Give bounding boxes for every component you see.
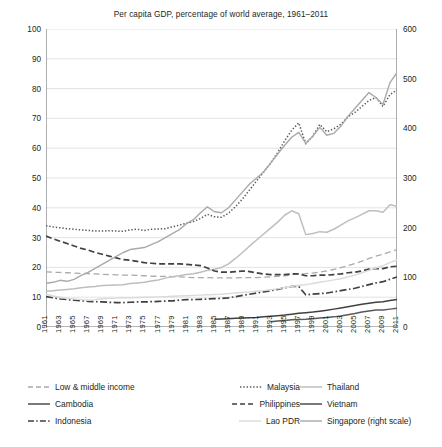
y-tick-label-left: 20 (7, 263, 41, 272)
x-tick-label: 2001 (321, 315, 330, 333)
x-tick-label: 1965 (68, 315, 77, 333)
y-tick-label-left: 30 (7, 233, 41, 242)
x-tick-label: 1987 (223, 315, 232, 333)
legend-label: Thailand (327, 382, 359, 392)
legend-label: Vietnam (327, 399, 358, 409)
x-tick-label: 1983 (195, 315, 204, 333)
x-tick-label: 2005 (349, 315, 358, 333)
y-tick-label-left: 100 (7, 25, 41, 34)
chart-legend: Low & middle incomeMalaysiaThailandCambo… (28, 378, 428, 429)
y-tick-label-left: 0 (7, 323, 41, 332)
legend-row: IndonesiaLao PDRSingapore (right scale) (28, 412, 428, 429)
legend-label: Cambodia (55, 399, 93, 409)
legend-label: Indonesia (55, 416, 91, 426)
x-tick-label: 1973 (124, 315, 133, 333)
legend-item[interactable]: Thailand (300, 382, 428, 392)
x-tick-label: 2007 (363, 315, 372, 333)
legend-item[interactable]: Lao PDR (180, 416, 300, 426)
y-tick-label-left: 70 (7, 114, 41, 123)
y-tick-label-right: 600 (403, 25, 417, 34)
x-tick-label: 2009 (377, 315, 386, 333)
x-tick-label: 1993 (265, 315, 274, 333)
x-tick-label: 1967 (82, 315, 91, 333)
legend-swatch-line-icon (240, 383, 262, 391)
x-tick-label: 1997 (293, 315, 302, 333)
legend-item[interactable]: Low & middle income (28, 382, 180, 392)
x-tick-label: 1991 (251, 315, 260, 333)
y-tick-label-right: 0 (403, 323, 408, 332)
legend-label: Malaysia (267, 382, 300, 392)
legend-swatch-line-icon (300, 383, 322, 391)
y-tick-label-left: 60 (7, 144, 41, 153)
x-tick-label: 1961 (40, 315, 49, 333)
legend-swatch-line-icon (28, 400, 50, 408)
legend-label: Lao PDR (266, 416, 300, 426)
legend-swatch-line-icon (239, 417, 261, 425)
plot-area: 1009080706050403020100600500400300200100… (46, 29, 397, 327)
y-tick-label-left: 50 (7, 174, 41, 183)
x-tick-label: 1971 (110, 315, 119, 333)
y-tick-label-left: 90 (7, 54, 41, 63)
legend-label: Low & middle income (55, 382, 135, 392)
y-tick-label-right: 100 (403, 273, 417, 282)
x-tick-label: 1999 (307, 315, 316, 333)
legend-swatch-line-icon (28, 417, 50, 425)
y-tick-label-right: 400 (403, 124, 417, 133)
legend-swatch-line-icon (28, 383, 50, 391)
series-line (46, 90, 397, 231)
x-tick-label: 1977 (153, 315, 162, 333)
legend-item[interactable]: Indonesia (28, 416, 180, 426)
x-tick-label: 1969 (96, 315, 105, 333)
legend-row: Low & middle incomeMalaysiaThailand (28, 378, 428, 395)
y-tick-label-right: 200 (403, 223, 417, 232)
x-tick-label: 1995 (279, 315, 288, 333)
chart-figure: Per capita GDP, percentage of world aver… (0, 0, 442, 447)
legend-item[interactable]: Cambodia (28, 399, 180, 409)
legend-label: Philippines (259, 399, 300, 409)
legend-swatch-line-icon (300, 417, 322, 425)
y-tick-label-right: 500 (403, 74, 417, 83)
legend-swatch-line-icon (300, 400, 322, 408)
legend-item[interactable]: Philippines (180, 399, 300, 409)
legend-item[interactable]: Singapore (right scale) (300, 416, 428, 426)
legend-swatch-line-icon (232, 400, 254, 408)
legend-label: Singapore (right scale) (327, 416, 411, 426)
y-tick-label-left: 40 (7, 203, 41, 212)
legend-item[interactable]: Vietnam (300, 399, 428, 409)
x-tick-label: 1985 (209, 315, 218, 333)
x-tick-label: 1963 (54, 315, 63, 333)
x-tick-label: 1981 (181, 315, 190, 333)
x-tick-label: 1979 (167, 315, 176, 333)
x-tick-label: 1989 (237, 315, 246, 333)
y-tick-label-left: 80 (7, 84, 41, 93)
y-tick-label-right: 300 (403, 174, 417, 183)
x-tick-label: 2011 (391, 316, 400, 333)
x-tick-label: 2003 (335, 315, 344, 333)
y-tick-label-left: 10 (7, 293, 41, 302)
chart-title: Per capita GDP, percentage of world aver… (0, 10, 442, 19)
plot-svg (46, 29, 397, 327)
legend-row: CambodiaPhilippinesVietnam (28, 395, 428, 412)
x-tick-label: 1975 (138, 315, 147, 333)
series-line (46, 236, 397, 276)
legend-item[interactable]: Malaysia (180, 382, 300, 392)
